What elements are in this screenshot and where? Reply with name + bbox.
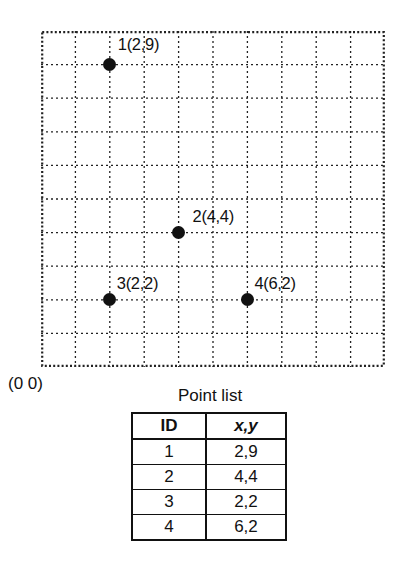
point-label-2: 2(4,4) [193,207,234,226]
column-header-id: ID [132,413,206,439]
cell-xy: 2,2 [206,490,286,515]
point-label-1: 1(2,9) [118,35,159,54]
cell-xy: 6,2 [206,515,286,541]
table-caption: Point list [131,386,289,406]
point-label-3: 3(2,2) [117,274,158,293]
grid-canvas [41,31,385,367]
table-row: 24,4 [132,465,286,490]
point-list-block: Point list ID x,y 12,924,432,246,2 [131,386,289,541]
cell-xy: 4,4 [206,465,286,490]
cell-xy: 2,9 [206,439,286,465]
point-list-table: ID x,y 12,924,432,246,2 [131,412,287,541]
cell-id: 2 [132,465,206,490]
cell-id: 3 [132,490,206,515]
table-row: 12,9 [132,439,286,465]
table-header-row: ID x,y [132,413,286,439]
cell-id: 4 [132,515,206,541]
origin-label: (0 0) [8,374,43,394]
cell-id: 1 [132,439,206,465]
column-header-xy: x,y [206,413,286,439]
table-row: 46,2 [132,515,286,541]
table-row: 32,2 [132,490,286,515]
table-body: 12,924,432,246,2 [132,439,286,540]
point-plot: 1(2,9)2(4,4)3(2,2)4(6,2) [41,31,385,367]
point-label-4: 4(6,2) [254,274,295,293]
